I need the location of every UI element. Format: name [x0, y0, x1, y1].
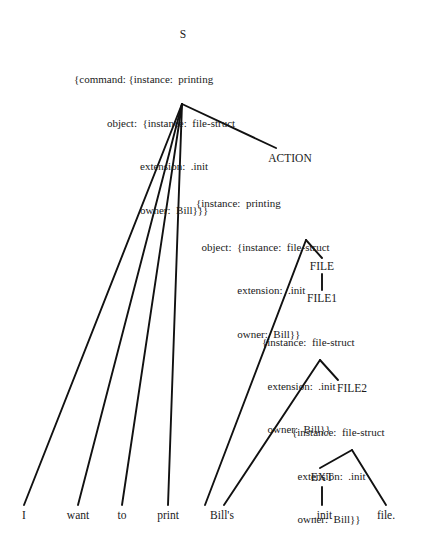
leaf-file: file. [377, 509, 395, 522]
node-file2-features: {instance: file-struct extension: .init … [292, 396, 385, 541]
node-ext-label: EXT [311, 471, 333, 484]
leaf-i: I [22, 509, 26, 522]
node-file1-label: FILE1 [307, 292, 337, 305]
node-s-label: S [180, 28, 186, 41]
node-file2-feature-line: owner: Bill}} [292, 512, 385, 527]
node-action-feature-line: {instance: printing [196, 196, 330, 211]
leaf-bills: Bill's [210, 509, 234, 522]
node-file-label: FILE [310, 260, 334, 273]
leaf-to: to [118, 509, 127, 522]
leaf-want: want [67, 509, 89, 522]
node-action-label: ACTION [268, 152, 311, 165]
node-s-feature-line: object: {instance: file-struct [74, 116, 235, 131]
node-file1-feature-line: {instance: file-struct [262, 335, 355, 350]
node-file2-feature-line: extension: .init [292, 469, 385, 484]
node-action-feature-line: object: {instance: file-struct [196, 240, 330, 255]
leaf-print: print [157, 509, 179, 522]
node-file2-feature-line: {instance: file-struct [292, 425, 385, 440]
leaf-init: .init [314, 509, 332, 522]
node-file2-label: FILE2 [337, 382, 367, 395]
node-s-feature-line: {command: {instance: printing [74, 72, 235, 87]
